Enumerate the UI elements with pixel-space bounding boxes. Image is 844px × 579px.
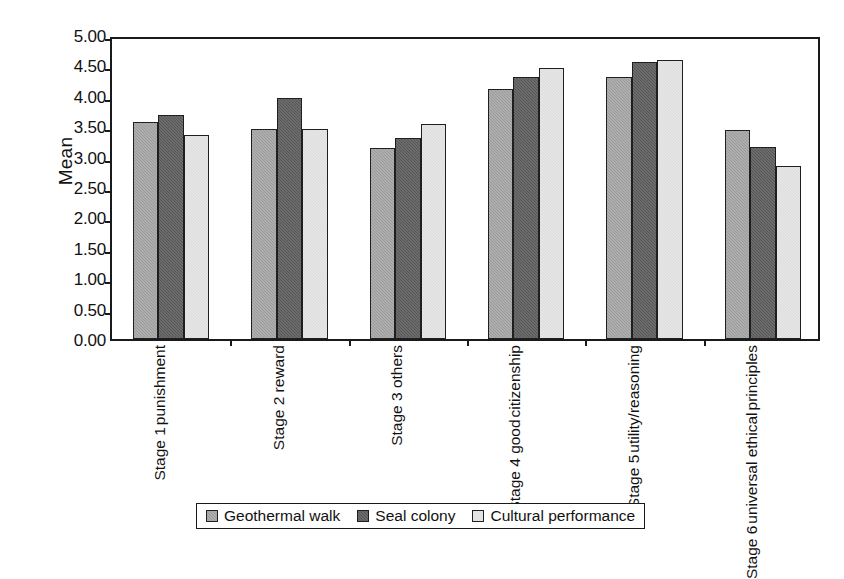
legend-item: Seal colony xyxy=(357,507,455,525)
y-tick-mark xyxy=(105,313,112,315)
plot-area xyxy=(110,37,820,341)
y-tick-mark xyxy=(105,69,112,71)
bar-series-container xyxy=(112,39,818,339)
bar xyxy=(370,148,396,339)
y-tick-mark xyxy=(105,100,112,102)
x-tick-label-line: Stage 3 others xyxy=(388,345,405,446)
x-tick-label-line: Stage 4 good xyxy=(506,419,523,511)
bar xyxy=(632,62,658,339)
y-tick-label: 2.00 xyxy=(74,209,106,229)
bar xyxy=(184,135,210,339)
legend-label: Seal colony xyxy=(375,507,455,525)
legend-swatch-icon xyxy=(472,510,484,522)
x-tick-label-line: punishment xyxy=(151,345,168,425)
x-axis-tick-labels: Stage 1punishmentStage 2 rewardStage 3 o… xyxy=(110,345,820,495)
x-tick-label-line: citizenship xyxy=(506,345,523,417)
x-tick-label: Stage 1punishment xyxy=(151,345,187,495)
bar xyxy=(513,77,539,339)
bar xyxy=(158,115,184,339)
y-tick-label: 3.00 xyxy=(74,149,106,169)
bar xyxy=(488,89,514,339)
bar xyxy=(302,129,328,339)
legend-item: Geothermal walk xyxy=(206,507,340,525)
x-tick-label: Stage 2 reward xyxy=(270,345,306,495)
x-tick-label: Stage 6universal ethicalprinciples xyxy=(743,345,779,495)
x-tick-label-line: principles xyxy=(743,345,760,410)
bar xyxy=(133,122,159,339)
bar xyxy=(539,68,565,339)
legend-swatch-icon xyxy=(357,510,369,522)
x-tick-label-line: universal ethical xyxy=(743,412,760,523)
bar xyxy=(657,60,683,339)
y-tick-mark xyxy=(105,252,112,254)
x-tick-label-line: Stage 2 reward xyxy=(270,345,287,450)
legend-label: Cultural performance xyxy=(490,507,635,525)
x-tick-label: Stage 5utility/reasoning xyxy=(625,345,661,495)
y-tick-label: 5.00 xyxy=(74,27,106,47)
y-tick-label: 4.50 xyxy=(74,57,106,77)
bar xyxy=(606,77,632,339)
y-tick-label: 2.50 xyxy=(74,179,106,199)
y-tick-label: 0.50 xyxy=(74,301,106,321)
bar xyxy=(421,124,447,339)
x-tick-label: Stage 3 others xyxy=(388,345,424,495)
chart-legend: Geothermal walkSeal colonyCultural perfo… xyxy=(196,503,645,529)
bar xyxy=(776,166,802,339)
y-tick-mark xyxy=(105,161,112,163)
bar xyxy=(395,138,421,339)
y-tick-label: 1.50 xyxy=(74,240,106,260)
bar xyxy=(251,129,277,339)
x-tick-label-line: utility/reasoning xyxy=(625,345,642,453)
y-axis-tick-labels: 0.000.501.001.502.002.503.003.504.004.50… xyxy=(44,0,106,570)
bar xyxy=(725,130,751,339)
y-tick-mark xyxy=(105,39,112,41)
y-tick-mark xyxy=(105,130,112,132)
x-tick-label-line: Stage 5 xyxy=(625,455,642,508)
y-tick-mark xyxy=(105,221,112,223)
y-tick-label: 1.00 xyxy=(74,270,106,290)
y-tick-mark xyxy=(105,191,112,193)
x-tick-label-line: Stage 1 xyxy=(151,427,168,480)
y-tick-label: 4.00 xyxy=(74,88,106,108)
x-tick-label: Stage 4 goodcitizenship xyxy=(506,345,542,495)
legend-item: Cultural performance xyxy=(472,507,635,525)
y-tick-mark xyxy=(105,282,112,284)
bar xyxy=(277,98,303,339)
bar xyxy=(750,147,776,339)
legend-label: Geothermal walk xyxy=(224,507,340,525)
y-tick-label: 3.50 xyxy=(74,118,106,138)
legend-swatch-icon xyxy=(206,510,218,522)
x-tick-label-line: Stage 6 xyxy=(743,526,760,579)
y-tick-label: 0.00 xyxy=(74,331,106,351)
